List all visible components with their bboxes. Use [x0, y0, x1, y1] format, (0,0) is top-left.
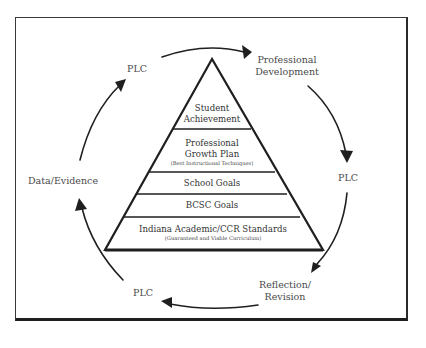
arrowhead-icon	[242, 45, 252, 59]
arrow-plc-to-reflection	[317, 193, 347, 264]
node-reflection-revision: Reflection/ Revision	[259, 279, 311, 303]
arrow-plc-to-data	[82, 208, 123, 280]
arrowhead-icon	[161, 297, 172, 308]
node-plc-right: PLC	[338, 172, 358, 184]
tier-bcsc-goals: BCSC Goals	[186, 200, 239, 211]
tier-student-achievement: Student Achievement	[184, 103, 241, 125]
node-professional-development: Professional Development	[255, 54, 319, 78]
tier-subtitle: (Guaranteed and Viable Curriculum)	[139, 235, 287, 242]
arrow-reflection-to-plc	[170, 304, 258, 308]
node-plc-bottom: PLC	[133, 287, 153, 299]
tier-professional-growth-plan: Professional Growth Plan (Best Instructi…	[171, 138, 254, 167]
arrow-data-to-plc	[80, 85, 120, 160]
arrowhead-icon	[75, 198, 87, 211]
arrow-pd-to-plc	[308, 86, 346, 154]
cycle-diagram	[0, 0, 426, 348]
arrowhead-icon	[115, 79, 126, 92]
node-plc-top: PLC	[127, 63, 147, 75]
arrow-plc-to-pd	[162, 48, 244, 57]
tier-subtitle: (Best Instructional Techniques)	[171, 160, 254, 167]
node-data-evidence: Data/Evidence	[28, 175, 98, 187]
arrowhead-icon	[340, 150, 353, 163]
arrowhead-icon	[311, 262, 321, 273]
tier-school-goals: School Goals	[184, 178, 240, 189]
tier-indiana-standards: Indiana Academic/CCR Standards (Guarante…	[139, 224, 287, 242]
